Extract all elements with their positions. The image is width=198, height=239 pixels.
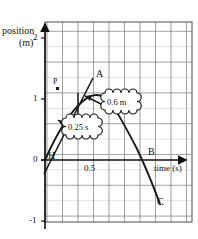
point-label-a: A — [96, 69, 103, 79]
x-tick-0point5: 0.5 — [84, 164, 95, 173]
point-label-h: H — [48, 151, 55, 161]
y-axis-label-line1: position — [2, 26, 34, 36]
y-tick-0: 0 — [33, 155, 38, 164]
y-axis-label-line2: (m) — [19, 38, 33, 48]
point-label-b: B — [148, 147, 155, 157]
position-time-graph: position (m) 2 1 0 -1 0.5 time (s) H P A… — [0, 0, 198, 239]
y-tick-neg1: -1 — [29, 216, 37, 225]
x-axis-label: time (s) — [154, 164, 182, 173]
point-label-c: C — [157, 197, 164, 207]
y-tick-2: 2 — [33, 33, 38, 42]
callout-label-time: 0.25 s — [68, 123, 88, 132]
point-marker-p — [56, 87, 59, 90]
callout-label-height: 0.6 m — [107, 98, 126, 107]
point-label-p: P — [53, 78, 57, 86]
y-tick-1: 1 — [33, 94, 38, 103]
